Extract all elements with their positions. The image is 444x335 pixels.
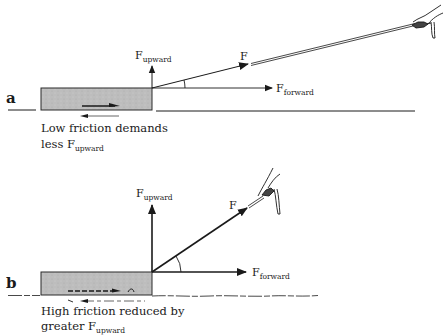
f-forward-label-b: Fforward — [252, 266, 290, 281]
angle-arc — [176, 256, 181, 272]
caption-b-line1: High friction reduced by — [41, 304, 185, 318]
f-upward-label-b: Fupward — [136, 187, 173, 202]
friction-arrowhead — [80, 114, 88, 118]
f-applied-label-a: F — [240, 50, 248, 63]
caption-a-line2: less Fupward — [41, 137, 104, 153]
f-upward-label-a: Fupward — [135, 49, 172, 64]
ground-line-rough — [8, 296, 318, 297]
f-applied-arrow — [152, 208, 247, 272]
panel-label-a: a — [6, 89, 16, 107]
friction-arrowhead — [80, 299, 88, 303]
force-diagram: a Fupward F Fforward — [0, 0, 444, 335]
hand-icon — [258, 168, 280, 214]
f-applied-arrow — [152, 64, 248, 88]
panel-b: b Fupward F Fforward — [6, 168, 318, 335]
panel-a: a Fupward F Fforward — [6, 5, 443, 153]
rope — [251, 24, 415, 66]
f-applied-label-b: F — [229, 199, 237, 212]
debris-mark — [68, 300, 73, 302]
angle-arc — [184, 80, 185, 88]
hand-icon — [412, 5, 443, 38]
caption-b-line2: greater Fupward — [41, 319, 125, 335]
caption-a-line1: Low friction demands — [41, 121, 168, 135]
f-forward-label-a: Fforward — [276, 82, 314, 97]
rope — [248, 196, 264, 208]
panel-label-b: b — [6, 274, 17, 292]
